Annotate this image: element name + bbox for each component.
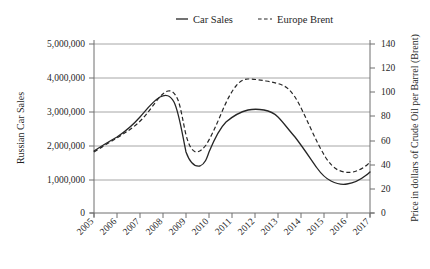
x-tick-label-2009: 2009 <box>167 216 188 237</box>
x-tick-label-2012: 2012 <box>236 216 257 237</box>
x-tick-label-2005: 2005 <box>75 216 96 237</box>
legend-label-car-sales: Car Sales <box>193 14 233 25</box>
series-car-sales <box>94 95 370 184</box>
y2-tick-label-120: 120 <box>381 63 396 73</box>
y-tick-label-4000000: 4,000,000 <box>47 73 85 83</box>
x-axis-labels: 2005 2006 2007 2008 2009 2010 2011 2012 … <box>75 216 372 237</box>
x-tick-label-2010: 2010 <box>190 216 211 237</box>
y-axis-title: Russian Car Sales <box>15 92 26 164</box>
y2-tick-label-40: 40 <box>381 160 391 170</box>
x-tick-label-2007: 2007 <box>121 216 142 237</box>
y-axis-right-ticks <box>370 44 375 213</box>
x-tick-label-2006: 2006 <box>98 216 119 237</box>
y2-tick-label-60: 60 <box>381 136 391 146</box>
legend: Car Sales Europe Brent <box>176 14 333 25</box>
gridlines <box>94 44 370 180</box>
x-axis-ticks <box>94 213 370 218</box>
series-europe-brent <box>94 79 370 172</box>
x-tick-label-2014: 2014 <box>282 216 303 237</box>
y-axis-left-labels: 5,000,000 4,000,000 3,000,000 2,000,000 … <box>47 39 85 218</box>
x-tick-label-2008: 2008 <box>144 216 165 237</box>
y-tick-label-1000000: 1,000,000 <box>47 175 85 185</box>
x-tick-label-2016: 2016 <box>328 216 349 237</box>
y2-tick-label-80: 80 <box>381 111 391 121</box>
x-tick-label-2015: 2015 <box>305 216 326 237</box>
line-chart: 5,000,000 4,000,000 3,000,000 2,000,000 … <box>0 0 430 269</box>
y2-tick-label-140: 140 <box>381 39 396 49</box>
y2-axis-title: Price in dollars of Crude Oil per Barrel… <box>409 34 421 222</box>
series-group <box>94 79 370 184</box>
x-tick-label-2013: 2013 <box>259 216 280 237</box>
y-axis-right-labels: 140 120 100 80 60 40 20 0 <box>381 39 396 218</box>
y2-tick-label-20: 20 <box>381 184 391 194</box>
y2-tick-label-0: 0 <box>381 208 386 218</box>
y2-tick-label-100: 100 <box>381 87 396 97</box>
x-tick-label-2011: 2011 <box>213 216 233 236</box>
y-axis-left-ticks <box>89 44 94 213</box>
y-tick-label-5000000: 5,000,000 <box>47 39 85 49</box>
y-tick-label-0: 0 <box>80 208 85 218</box>
x-tick-label-2017: 2017 <box>351 216 372 237</box>
chart-container: 5,000,000 4,000,000 3,000,000 2,000,000 … <box>0 0 430 269</box>
y-tick-label-2000000: 2,000,000 <box>47 141 85 151</box>
y-tick-label-3000000: 3,000,000 <box>47 107 85 117</box>
legend-label-europe-brent: Europe Brent <box>277 14 333 25</box>
